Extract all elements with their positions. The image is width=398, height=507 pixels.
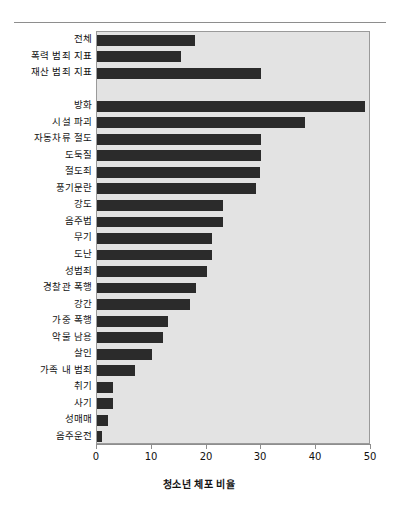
x-axis-line: [96, 444, 370, 445]
bar: [97, 183, 256, 194]
x-axis-tick: [151, 444, 152, 449]
y-axis-label: 성범죄: [0, 266, 92, 276]
top-divider-rule: [14, 22, 386, 23]
x-axis-title: 청소년 체포 비율: [0, 476, 398, 491]
bar-row: [97, 98, 369, 115]
bar-row: [97, 230, 369, 247]
x-axis-tick-label: 40: [309, 451, 322, 462]
bar: [97, 35, 195, 46]
bar: [97, 51, 181, 62]
bar: [97, 332, 163, 343]
bar: [97, 299, 190, 310]
bar-row: [97, 329, 369, 346]
y-axis-category-labels: 전체폭력 범죄 지표재산 범죄 지표방화시설 파괴자동차류 절도도둑질절도죄풍기…: [0, 31, 92, 444]
y-axis-label: 폭력 범죄 지표: [0, 51, 92, 61]
bar-row: [97, 296, 369, 313]
bar: [97, 283, 196, 294]
bar-row: [97, 131, 369, 148]
x-axis-tick: [206, 444, 207, 449]
bar-chart-figure: 전체폭력 범죄 지표재산 범죄 지표방화시설 파괴자동차류 절도도둑질절도죄풍기…: [0, 0, 398, 507]
x-axis-tick-label: 20: [200, 451, 213, 462]
x-axis-tick-label: 0: [93, 451, 99, 462]
bar: [97, 250, 212, 261]
bar: [97, 266, 207, 277]
y-axis-label: 음주법: [0, 216, 92, 226]
bar-row: [97, 395, 369, 412]
y-axis-label: 경찰관 폭행: [0, 282, 92, 292]
y-axis-label: 음주운전: [0, 431, 92, 441]
y-axis-label: 전체: [0, 34, 92, 44]
bar-row: [97, 263, 369, 280]
bar-row: [97, 313, 369, 330]
bar-row: [97, 148, 369, 165]
bar-row: [97, 428, 369, 444]
x-axis-tick-label: 30: [254, 451, 267, 462]
y-axis-label: 취기: [0, 381, 92, 391]
y-axis-label: 무기: [0, 232, 92, 242]
y-axis-label: 강간: [0, 299, 92, 309]
bar: [97, 117, 305, 128]
bar: [97, 365, 135, 376]
bar: [97, 200, 223, 211]
bar: [97, 431, 102, 442]
bar: [97, 134, 261, 145]
bar-row: [97, 197, 369, 214]
y-axis-label: 강도: [0, 199, 92, 209]
bar-row: [97, 49, 369, 66]
y-axis-label: 도난: [0, 249, 92, 259]
bar-row: [97, 32, 369, 49]
x-axis-tick: [370, 444, 371, 449]
y-axis-label: 풍기문란: [0, 183, 92, 193]
y-axis-label: 자동차류 절도: [0, 133, 92, 143]
y-axis-label: 사기: [0, 398, 92, 408]
bar-row: [97, 164, 369, 181]
plot-area: [96, 31, 370, 444]
y-axis-label: 절도죄: [0, 166, 92, 176]
bar-row: [97, 115, 369, 132]
bar-row: [97, 280, 369, 297]
bar-row: [97, 362, 369, 379]
bar-row: [97, 412, 369, 429]
bar: [97, 233, 212, 244]
y-axis-label: 악물 남용: [0, 332, 92, 342]
bar: [97, 382, 113, 393]
bar-row: [97, 247, 369, 264]
x-axis-tick-label: 50: [364, 451, 377, 462]
bar: [97, 150, 261, 161]
y-axis-label: 시설 파괴: [0, 117, 92, 127]
bar-row: [97, 181, 369, 198]
bar: [97, 398, 113, 409]
bar-row: [97, 379, 369, 396]
x-axis-tick: [315, 444, 316, 449]
y-axis-label: 가중 폭행: [0, 315, 92, 325]
x-axis-tick: [260, 444, 261, 449]
y-axis-label: 재산 범죄 지표: [0, 67, 92, 77]
x-axis-tick: [96, 444, 97, 449]
bar: [97, 349, 152, 360]
y-axis-label: 방화: [0, 100, 92, 110]
bar-row: [97, 65, 369, 82]
bar: [97, 217, 223, 228]
bar: [97, 101, 365, 112]
bar-row: [97, 214, 369, 231]
y-axis-label: 도둑질: [0, 150, 92, 160]
bar: [97, 415, 108, 426]
bar-rows: [97, 32, 369, 443]
bar-row: [97, 346, 369, 363]
bar: [97, 316, 168, 327]
bar: [97, 68, 261, 79]
y-axis-label: 성매매: [0, 414, 92, 424]
bar: [97, 167, 260, 178]
bar-row: [97, 82, 369, 99]
y-axis-label: 가족 내 범죄: [0, 365, 92, 375]
y-axis-label: 살인: [0, 348, 92, 358]
x-axis-tick-label: 10: [145, 451, 158, 462]
